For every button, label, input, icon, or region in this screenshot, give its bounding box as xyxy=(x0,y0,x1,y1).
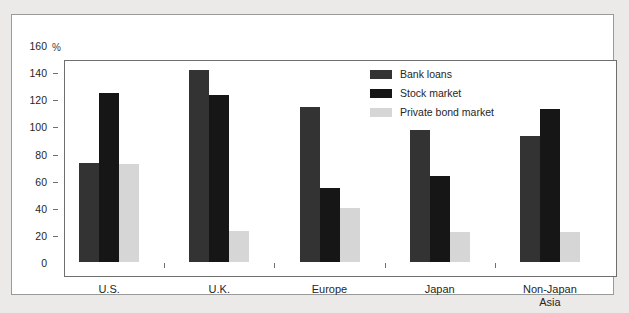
legend-label: Private bond market xyxy=(400,106,494,118)
y-axis-tick-label: 120 xyxy=(7,94,47,106)
bar-group xyxy=(189,47,249,262)
bar xyxy=(229,231,249,262)
y-axis-tick-label: 40 xyxy=(7,203,47,215)
y-axis-tick-label: 80 xyxy=(7,149,47,161)
bar xyxy=(560,232,580,262)
legend-item: Bank loans xyxy=(370,66,494,82)
y-axis-tick-label: 140 xyxy=(7,67,47,79)
y-axis-tick-mark xyxy=(53,127,58,128)
legend-swatch-icon xyxy=(370,70,392,79)
bar-group xyxy=(520,47,580,262)
bar xyxy=(320,188,340,262)
y-axis: 020406080100120140160 xyxy=(12,46,53,263)
figure-card: % 020406080100120140160 Bank loansStock … xyxy=(11,14,614,295)
x-axis-category-label: U.K. xyxy=(164,283,274,296)
legend-label: Stock market xyxy=(400,87,461,99)
bar xyxy=(340,208,360,262)
bar xyxy=(430,176,450,262)
legend-item: Private bond market xyxy=(370,104,494,120)
bar-group xyxy=(79,47,139,262)
bar xyxy=(520,136,540,262)
bars-layer xyxy=(54,47,605,262)
x-axis-category-label: Europe xyxy=(275,283,385,296)
legend-swatch-icon xyxy=(370,108,392,117)
bar xyxy=(189,70,209,262)
bar xyxy=(99,93,119,262)
x-axis-tick-mark xyxy=(385,263,386,268)
y-axis-tick-mark xyxy=(53,209,58,210)
y-axis-tick-label: 20 xyxy=(7,230,47,242)
y-axis-tick-mark xyxy=(53,100,58,101)
bar xyxy=(79,163,99,262)
y-axis-tick-label: 100 xyxy=(7,121,47,133)
bar xyxy=(209,95,229,262)
legend-label: Bank loans xyxy=(400,68,452,80)
x-axis-tick-mark xyxy=(164,263,165,268)
x-axis-tick-mark xyxy=(274,263,275,268)
y-axis-tick-label: 60 xyxy=(7,176,47,188)
x-axis-tick-mark xyxy=(495,263,496,268)
bar xyxy=(300,107,320,262)
x-axis-category-label: Japan xyxy=(385,283,495,296)
bar xyxy=(450,232,470,262)
y-axis-tick-mark xyxy=(53,236,58,237)
chart-legend: Bank loansStock marketPrivate bond marke… xyxy=(370,66,494,123)
bar xyxy=(410,130,430,262)
legend-item: Stock market xyxy=(370,85,494,101)
bar-group xyxy=(300,47,360,262)
x-axis-category-label: U.S. xyxy=(54,283,164,296)
bar xyxy=(119,164,139,262)
y-axis-tick-label: 160 xyxy=(7,40,47,52)
chart-figure: % 020406080100120140160 Bank loansStock … xyxy=(0,0,629,313)
y-axis-tick-label: 0 xyxy=(7,257,47,269)
legend-swatch-icon xyxy=(370,89,392,98)
y-axis-tick-mark xyxy=(53,73,58,74)
x-axis-category-label: Non-Japan Asia xyxy=(495,283,605,309)
bar xyxy=(540,109,560,262)
y-axis-tick-mark xyxy=(53,155,58,156)
y-axis-tick-mark xyxy=(53,182,58,183)
